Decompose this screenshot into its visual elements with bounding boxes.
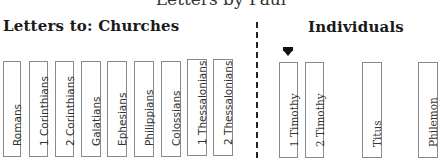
book-2-timothy: 2 Timothy [305,62,324,158]
book-label: 1 Timothy [288,93,300,147]
diagram-title: Letters by Paul [0,0,442,9]
individuals-heading: Individuals [308,18,404,36]
book-1-corinthians: 1 Corinthians [29,61,48,157]
book-1-thessalonians: 1 Thessalonians [187,59,207,156]
book-2-corinthians: 2 Corinthians [55,61,74,157]
churches-heading: Letters to: Churches [3,17,179,35]
book-1-timothy: 1 Timothy [279,62,298,158]
section-divider [256,22,258,158]
book-label: Romans [11,104,23,146]
book-galatians: Galatians [81,61,101,157]
book-label: 2 Thessalonians [222,61,234,145]
book-label: Philippians [143,89,155,146]
book-philemon: Philemon [418,62,438,158]
book-2-thessalonians: 2 Thessalonians [213,59,233,156]
book-romans: Romans [3,61,21,157]
book-label: Philemon [427,97,439,147]
book-label: Galatians [90,96,102,146]
book-colossians: Colossians [161,61,181,157]
pointer-arrow-icon [283,50,293,56]
book-label: 2 Timothy [314,93,326,147]
book-label: 2 Corinthians [64,76,76,146]
book-label: 1 Thessalonians [196,61,208,145]
book-label: Titus [371,120,383,147]
book-titus: Titus [362,62,382,158]
book-label: Ephesians [116,93,128,146]
book-label: 1 Corinthians [38,76,50,146]
book-philippians: Philippians [134,61,154,157]
book-label: Colossians [170,90,182,146]
book-ephesians: Ephesians [107,61,127,157]
